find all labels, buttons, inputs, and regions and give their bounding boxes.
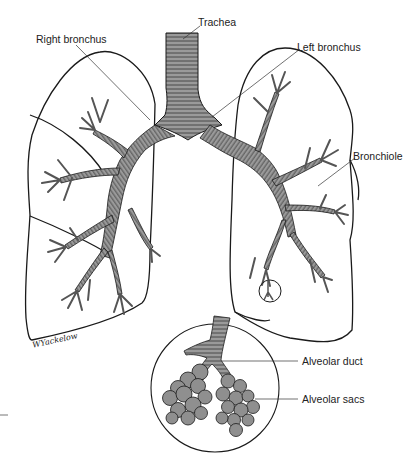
label-alveolar-duct: Alveolar duct bbox=[302, 355, 363, 367]
label-bronchiole: Bronchiole bbox=[353, 150, 403, 162]
label-left-bronchus: Left bronchus bbox=[297, 41, 361, 53]
label-right-bronchus: Right bronchus bbox=[36, 33, 107, 45]
lungs-diagram: Trachea Right bronchus Left bronchus Bro… bbox=[0, 0, 419, 464]
left-bronchial-tree bbox=[200, 92, 335, 278]
left-bronchioles bbox=[250, 72, 348, 292]
label-alveolar-sacs: Alveolar sacs bbox=[302, 393, 364, 405]
label-trachea: Trachea bbox=[198, 16, 236, 28]
alveoli-inset bbox=[151, 316, 279, 452]
right-bronchial-tree bbox=[60, 125, 175, 295]
right-bronchioles bbox=[42, 98, 160, 314]
left-lung-outline bbox=[230, 48, 359, 342]
right-lung-outline bbox=[25, 52, 155, 340]
trachea bbox=[155, 33, 222, 140]
